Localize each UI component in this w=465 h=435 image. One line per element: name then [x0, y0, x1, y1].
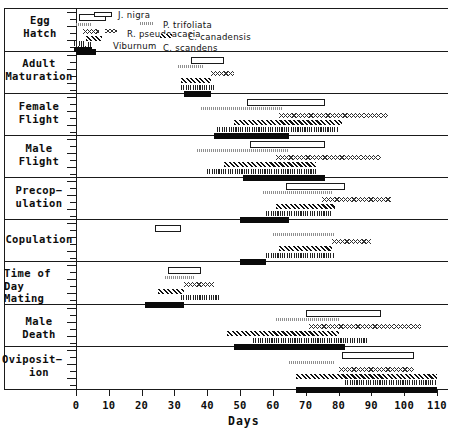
legend-label-c-scandens: C. scandens: [163, 43, 218, 53]
cat-line: Oviposit−: [2, 353, 76, 366]
y-axis-tick: [70, 76, 76, 77]
y-axis-tick: [67, 293, 76, 294]
x-axis-tick: [142, 389, 143, 396]
legend-label-c-canadensis: C. canadensis: [188, 32, 251, 42]
y-axis-tick: [70, 146, 76, 147]
bar-viburnum: [266, 211, 332, 216]
bar-c-canadensis: [86, 36, 102, 41]
bar-c-scandens: [240, 259, 266, 265]
bar-c-canadensis: [234, 120, 342, 125]
bar-c-scandens: [184, 91, 210, 97]
bar-j-nigra: [250, 141, 325, 148]
x-axis-tick: [174, 389, 175, 396]
cat-line: Adult: [2, 57, 76, 70]
category-separator: [4, 93, 448, 94]
y-axis-tick: [70, 343, 76, 344]
y-axis-tick: [67, 12, 76, 13]
x-axis-tick-label: 90: [355, 399, 387, 411]
y-axis-tick: [67, 322, 76, 323]
y-axis-tick: [70, 300, 76, 301]
x-axis-tick-label: 0: [60, 399, 92, 411]
bar-c-scandens: [214, 133, 289, 139]
x-axis-tick-label: 70: [290, 399, 322, 411]
cat-line: Precop−: [2, 184, 76, 197]
bar-p-trifoliata: [197, 149, 289, 152]
bar-c-scandens: [240, 217, 289, 223]
cat-line: Maturation: [2, 70, 76, 83]
bar-p-trifoliata: [165, 276, 195, 279]
y-axis-tick: [70, 230, 76, 231]
life-history-gantt-chart: Egg Hatch Adult Maturation Female Flight…: [0, 0, 465, 435]
bar-r-pseudoacacia: [279, 113, 387, 118]
cat-line: ion: [2, 366, 76, 379]
cat-line: Flight: [4, 113, 74, 126]
y-axis-tick: [67, 153, 76, 154]
y-axis-tick: [70, 329, 76, 330]
bar-c-canadensis: [158, 289, 184, 294]
cat-line: Male: [4, 315, 74, 328]
category-label-time-of-day-mating: Time of Day Mating: [4, 267, 76, 305]
bar-j-nigra: [306, 310, 381, 317]
bar-r-pseudoacacia: [339, 367, 414, 372]
y-axis-tick: [67, 97, 76, 98]
y-axis-tick: [70, 244, 76, 245]
category-label-egg-hatch: Egg Hatch: [6, 14, 74, 39]
legend-swatch-c-canadensis: [160, 34, 172, 38]
legend-swatch-c-scandens: [74, 47, 92, 52]
category-label-copulation: Copulation: [2, 233, 76, 246]
category-label-adult-maturation: Adult Maturation: [2, 57, 76, 82]
x-axis-tick-label: 30: [158, 399, 190, 411]
y-axis-tick: [70, 357, 76, 358]
bar-j-nigra: [286, 183, 345, 190]
category-label-male-death: Male Death: [4, 315, 74, 340]
bar-c-canadensis: [224, 162, 316, 167]
y-axis-tick: [67, 251, 76, 252]
y-axis-tick: [70, 104, 76, 105]
y-axis-tick: [67, 125, 76, 126]
x-axis-tick-label: 60: [257, 399, 289, 411]
bar-viburnum: [181, 295, 220, 300]
category-separator: [4, 261, 448, 262]
legend-swatch-j-nigra: [94, 12, 112, 17]
x-axis-tick: [273, 389, 274, 396]
category-separator: [4, 346, 448, 347]
y-axis-tick: [67, 279, 76, 280]
bar-p-trifoliata: [201, 107, 283, 110]
bar-r-pseudoacacia: [322, 197, 391, 202]
x-axis-tick-label: 40: [191, 399, 223, 411]
y-axis-tick: [67, 69, 76, 70]
cat-line: Time of: [4, 267, 76, 280]
y-axis-tick: [67, 209, 76, 210]
y-axis-tick: [70, 160, 76, 161]
bar-p-trifoliata: [289, 361, 335, 364]
cat-line: Death: [4, 328, 74, 341]
bar-r-pseudoacacia: [83, 29, 99, 34]
y-axis-tick: [67, 364, 76, 365]
bar-j-nigra: [191, 57, 224, 64]
y-axis-tick: [67, 111, 76, 112]
x-axis-tick: [207, 389, 208, 396]
y-axis-tick: [70, 315, 76, 316]
cat-line: Male: [4, 142, 74, 155]
cat-line: Female: [4, 100, 74, 113]
y-axis-tick: [67, 237, 76, 238]
bar-r-pseudoacacia: [332, 239, 371, 244]
x-axis-tick-label: 10: [93, 399, 125, 411]
category-label-oviposition: Oviposit− ion: [2, 353, 76, 378]
bar-r-pseudoacacia: [276, 155, 381, 160]
y-axis-tick: [70, 174, 76, 175]
y-axis-tick: [67, 181, 76, 182]
bar-j-nigra: [155, 225, 181, 232]
bar-viburnum: [207, 169, 315, 174]
y-axis-tick: [70, 33, 76, 34]
category-label-male-flight: Male Flight: [4, 142, 74, 167]
y-axis-line: [76, 8, 77, 390]
y-axis-tick: [70, 202, 76, 203]
bar-c-canadensis: [296, 374, 437, 379]
y-axis-tick: [70, 272, 76, 273]
category-separator: [4, 219, 448, 220]
y-axis-tick: [67, 265, 76, 266]
legend-swatch-viburnum: [74, 41, 86, 46]
y-axis-tick: [67, 350, 76, 351]
y-axis-tick: [67, 55, 76, 56]
